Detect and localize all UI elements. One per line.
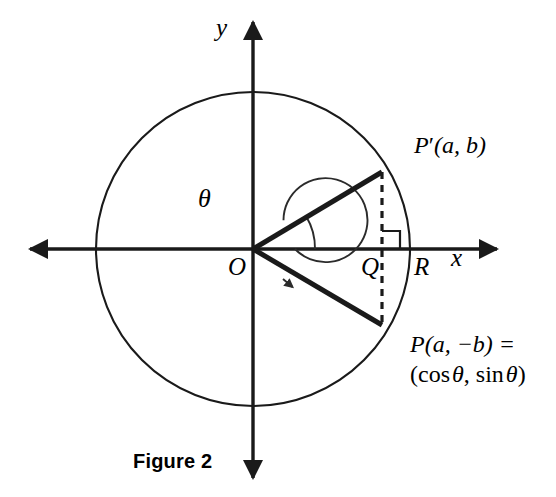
x-axis-label: x — [451, 243, 462, 273]
y-axis-label: y — [216, 13, 227, 43]
theta-label: θ — [198, 184, 211, 215]
point-p-prime-name: P — [414, 132, 429, 158]
paren-open: ( — [410, 361, 418, 387]
point-p-name: P — [410, 331, 425, 357]
theta-inner-arc — [306, 216, 315, 249]
point-p-label-line2: (cos θ, sin θ) — [410, 360, 526, 388]
figure-drawing — [0, 0, 556, 497]
point-p-prime-label: P′(a, b) — [414, 131, 486, 159]
figure-caption: Figure 2 — [133, 450, 212, 474]
point-p-coords: (a, −b) = — [425, 331, 515, 357]
point-p-prime-coords: (a, b) — [434, 132, 486, 158]
cos-theta-symbol: θ — [452, 361, 464, 387]
cos-function: cos — [418, 361, 450, 387]
coords-comma: , — [464, 361, 476, 387]
point-q-label: Q — [361, 252, 379, 282]
theta-reflex-arc-tip — [283, 279, 293, 287]
paren-close: ) — [518, 361, 526, 387]
sin-theta-symbol: θ — [506, 361, 518, 387]
segment-o-p-prime — [253, 172, 382, 249]
figure-container: y x θ O Q R P′(a, b) P(a, −b) = (cos θ, … — [0, 0, 556, 497]
point-p-label: P(a, −b) = (cos θ, sin θ) — [410, 330, 526, 389]
sin-function: sin — [476, 361, 504, 387]
right-angle-marker — [382, 231, 400, 249]
point-r-label: R — [414, 252, 429, 282]
point-p-label-line1: P(a, −b) = — [410, 331, 515, 357]
origin-label: O — [228, 252, 246, 282]
